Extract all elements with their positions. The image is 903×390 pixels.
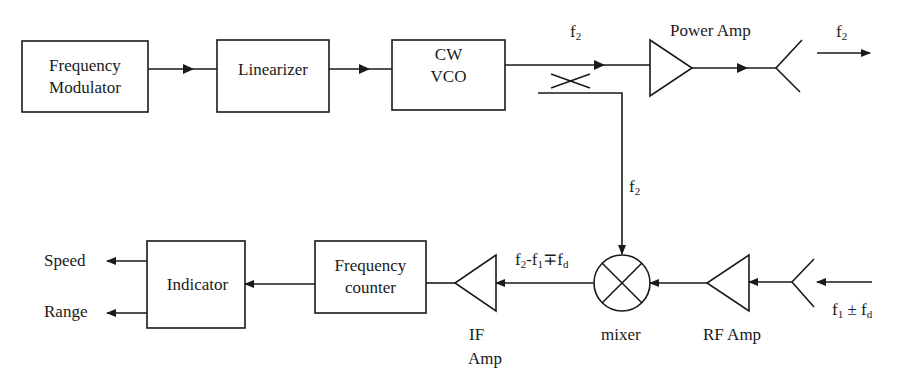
fm-line1: Frequency <box>49 55 121 77</box>
cw-vco-label: CWVCO <box>392 36 505 96</box>
tx-out-signal-label: f2 <box>836 22 847 42</box>
fc-line2: counter <box>335 277 407 299</box>
arrowhead-lin-vco <box>359 64 370 74</box>
vco-out-signal-label: f2 <box>570 22 581 42</box>
vco-line2: VCO <box>431 66 467 88</box>
fm-line2: Modulator <box>49 77 121 99</box>
power-amp-triangle <box>650 40 692 96</box>
rx-in-signal-label: f1 ± fd <box>832 300 872 320</box>
arrowhead-vco-pa <box>594 60 605 70</box>
indicator-label: Indicator <box>150 241 245 328</box>
arrowhead-fm-lin <box>183 64 194 74</box>
arrowhead-pa-ant <box>737 63 748 73</box>
mixer-label: mixer <box>601 325 641 345</box>
if-signal-label: f2-f1∓fd <box>515 250 568 270</box>
power-amp-label: Power Amp <box>670 21 751 41</box>
linearizer-label: Linearizer <box>217 40 329 100</box>
tx-antenna-icon <box>776 40 802 92</box>
if-amp-label-line1: IF <box>469 325 484 345</box>
if-amp-triangle <box>455 255 496 311</box>
lo-feed-signal-label: f2 <box>629 177 640 197</box>
speed-output-label: Speed <box>44 251 86 271</box>
fc-line1: Frequency <box>335 255 407 277</box>
coupler-feed-line <box>538 93 622 254</box>
rf-amp-label: RF Amp <box>703 325 761 345</box>
rf-amp-triangle <box>707 255 749 311</box>
rx-antenna-icon <box>792 259 814 307</box>
range-output-label: Range <box>44 302 87 322</box>
vco-line1: CW <box>431 44 467 66</box>
frequency-modulator-label: FrequencyModulator <box>22 41 148 112</box>
frequency-counter-label: Frequencycounter <box>315 241 426 313</box>
if-amp-label-line2: Amp <box>468 349 502 369</box>
